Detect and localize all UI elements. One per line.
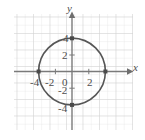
intercept-marker-bottom — [70, 103, 74, 107]
intercept-marker-right — [103, 70, 107, 74]
x-tick-label-neg4: -4 — [30, 77, 39, 88]
intercept-marker-left — [37, 70, 41, 74]
x-tick-label-pos2: 2 — [87, 77, 93, 88]
y-tick-label-pos4: 4 — [63, 33, 69, 44]
y-tick-label-pos2: 2 — [62, 50, 68, 61]
x-axis-label: x — [133, 62, 138, 73]
intercept-marker-top — [70, 36, 74, 40]
circle-graph-figure: -4 -2 0 2 4 2 -2 -4 x y — [0, 0, 145, 140]
y-tick-label-neg2: -2 — [58, 85, 67, 96]
coordinate-plane-svg — [0, 0, 145, 140]
y-axis-label: y — [67, 3, 72, 14]
y-tick-label-neg4: -4 — [58, 103, 67, 114]
x-tick-label-neg2: -2 — [45, 77, 54, 88]
